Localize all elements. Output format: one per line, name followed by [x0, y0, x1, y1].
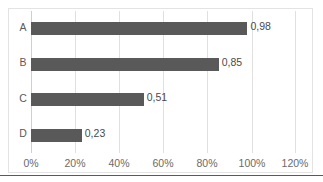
- x-tick-label-40: 40%: [108, 157, 129, 169]
- bar-row-d: 0,23: [31, 118, 296, 154]
- bar-value-b: 0,85: [222, 56, 242, 69]
- bar-c: [31, 93, 144, 106]
- bar-row-c: 0,51: [31, 82, 296, 118]
- x-tick-label-120: 120%: [282, 157, 309, 169]
- bar-value-c: 0,51: [147, 91, 167, 104]
- bar-row-b: 0,85: [31, 47, 296, 83]
- x-tick-label-0: 0%: [23, 157, 38, 169]
- bars-layer: 0,98 0,85 0,51 0,23: [31, 11, 296, 153]
- x-tick-label-60: 60%: [152, 157, 173, 169]
- plot-area: 0,98 0,85 0,51 0,23: [31, 11, 296, 153]
- x-tick-label-80: 80%: [196, 157, 217, 169]
- bar-b: [31, 58, 219, 71]
- bar-value-a: 0,98: [250, 20, 270, 33]
- bar-d: [31, 129, 82, 142]
- bar-value-d: 0,23: [85, 127, 105, 140]
- bar-chart-figure: A B C D 0,98 0,85 0,51 0: [0, 0, 323, 182]
- x-tick-label-20: 20%: [64, 157, 85, 169]
- bar-row-a: 0,98: [31, 11, 296, 47]
- bar-a: [31, 22, 247, 35]
- x-tick-label-100: 100%: [239, 157, 266, 169]
- bottom-separator-rule: [0, 175, 323, 176]
